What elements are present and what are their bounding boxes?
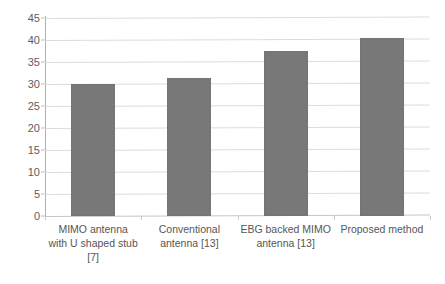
bar-slot	[334, 18, 430, 216]
x-axis-category-label: EBG backed MIMO antenna [13]	[238, 220, 334, 280]
y-axis-tick-label: 25	[28, 101, 40, 112]
y-axis-tick-label: 15	[28, 145, 40, 156]
bar-series	[45, 18, 430, 216]
bar	[71, 84, 115, 216]
y-axis-tick-label: 30	[28, 79, 40, 90]
x-axis-tick-mark	[45, 216, 46, 220]
x-axis-tick-mark	[238, 216, 239, 220]
y-axis-tick-label: 10	[28, 167, 40, 178]
bar-chart: 051015202530354045 MIMO antenna with U s…	[0, 0, 445, 284]
bar	[360, 38, 404, 216]
x-axis-tick-mark	[141, 216, 142, 220]
y-axis-tick-label: 20	[28, 123, 40, 134]
y-axis-tick-label: 45	[28, 13, 40, 24]
y-axis-tick-label: 35	[28, 57, 40, 68]
bar-slot	[238, 18, 334, 216]
x-axis-category-label: Proposed method	[334, 220, 430, 280]
bar-slot	[45, 18, 141, 216]
y-axis: 051015202530354045	[0, 18, 40, 216]
y-axis-tick-label: 0	[34, 211, 40, 222]
y-axis-tick-label: 5	[34, 189, 40, 200]
bar	[167, 78, 211, 216]
plot-area	[45, 18, 430, 216]
x-axis-tick-mark	[430, 216, 431, 220]
bar-slot	[141, 18, 237, 216]
y-axis-tick-label: 40	[28, 35, 40, 46]
x-axis-category-label: Conventional antenna [13]	[141, 220, 237, 280]
x-axis-category-label: MIMO antenna with U shaped stub [7]	[45, 220, 141, 280]
x-axis-tick-mark	[334, 216, 335, 220]
x-axis-labels: MIMO antenna with U shaped stub [7]Conve…	[45, 220, 430, 280]
bar	[264, 51, 308, 216]
